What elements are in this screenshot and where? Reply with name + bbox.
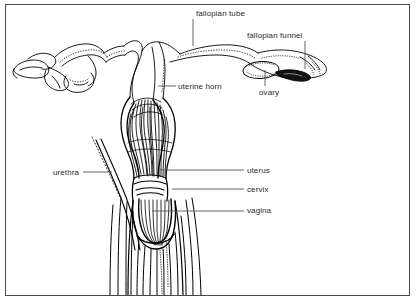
left-fallopian-tube-shape bbox=[55, 44, 125, 93]
label-uterine-horn: uterine horn bbox=[178, 82, 222, 92]
label-ovary: ovary bbox=[259, 88, 279, 98]
label-urethra: urethra bbox=[53, 168, 79, 178]
label-leader-lines bbox=[83, 19, 305, 211]
lower-tract-walls bbox=[128, 201, 183, 295]
lower-tract-fibers bbox=[110, 198, 201, 295]
label-fallopian-funnel: fallopian funnel bbox=[247, 31, 302, 41]
label-uterus: uterus bbox=[247, 166, 270, 176]
uterine-horns-and-right-tube bbox=[124, 41, 258, 103]
uterus-striations bbox=[129, 100, 169, 176]
urethra-shape bbox=[96, 139, 140, 250]
vagina-striations bbox=[141, 200, 169, 245]
label-cervix: cervix bbox=[247, 185, 269, 195]
left-fallopian-funnel-shape bbox=[13, 53, 68, 90]
urethra-dotted-guide bbox=[92, 137, 120, 197]
diagram-page: fallopian tube fallopian funnel uterine … bbox=[0, 0, 416, 302]
label-vagina: vagina bbox=[247, 206, 271, 216]
label-fallopian-tube: fallopian tube bbox=[196, 9, 245, 19]
anatomy-illustration bbox=[0, 0, 416, 302]
